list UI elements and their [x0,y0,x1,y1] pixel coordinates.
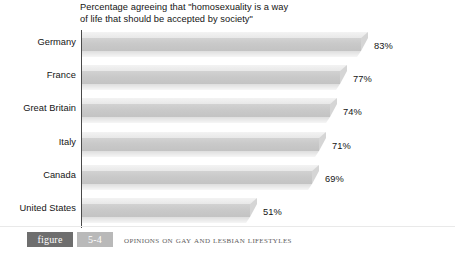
bar: 74% [82,98,337,123]
bar-row: Germany83% [0,28,455,61]
value-label: 51% [263,207,282,217]
figure-caption-bar: figure 5-4 Opinions on Gay and Lesbian L… [0,232,455,252]
category-label: France [0,70,76,80]
chart-title: Percentage agreeing that "homosexuality … [80,2,380,25]
bar: 77% [82,65,347,90]
bar-shape [82,198,257,223]
bar-row: Italy71% [0,128,455,161]
value-label: 71% [332,141,351,151]
footer-divider [0,226,455,227]
bar-row: Great Britain74% [0,94,455,127]
value-label: 74% [343,107,362,117]
category-label: Canada [0,170,76,180]
bar-shape [82,32,368,57]
bar: 71% [82,132,326,157]
figure-container: Percentage agreeing that "homosexuality … [0,0,455,263]
bar-shape [82,98,337,123]
category-label: Italy [0,137,76,147]
bar-row: France77% [0,61,455,94]
bar-shape [82,65,347,90]
figure-word-badge: figure [27,232,73,247]
bar: 69% [82,165,319,190]
bar-shape [82,132,326,157]
category-label: Great Britain [0,103,76,113]
value-label: 69% [325,174,344,184]
category-label: United States [0,203,76,213]
figure-number-badge: 5-4 [77,232,113,247]
value-label: 83% [374,41,393,51]
value-label: 77% [353,74,372,84]
category-label: Germany [0,37,76,47]
bar-row: Canada69% [0,161,455,194]
bar-shape [82,165,319,190]
plot-area: Germany83%France77%Great Britain74%Italy… [0,28,455,230]
bar: 51% [82,198,257,223]
figure-caption-text: Opinions on Gay and Lesbian Lifestyles [124,232,292,247]
bar: 83% [82,32,368,57]
bar-row: United States51% [0,194,455,227]
